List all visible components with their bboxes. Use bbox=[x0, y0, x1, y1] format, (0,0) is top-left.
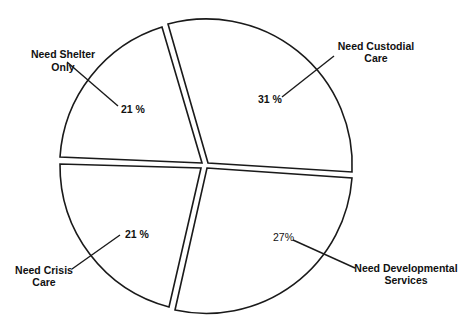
slice-developmental-shape bbox=[175, 168, 352, 313]
label-crisis-line2: Care bbox=[32, 276, 56, 288]
value-custodial: 31 % bbox=[258, 93, 283, 105]
value-developmental: 27% bbox=[273, 231, 294, 243]
label-shelter-line2: Only bbox=[51, 61, 74, 73]
label-custodial-line1: Need Custodial bbox=[338, 40, 415, 52]
label-custodial-line2: Care bbox=[364, 52, 388, 64]
label-crisis-line1: Need Crisis bbox=[15, 264, 73, 276]
label-developmental-line1: Need Developmental bbox=[354, 262, 457, 274]
pie-chart: Need Shelter Only 21 % Need Custodial Ca… bbox=[0, 0, 465, 328]
value-crisis: 21 % bbox=[125, 228, 150, 240]
value-shelter: 21 % bbox=[121, 103, 146, 115]
slice-developmental-services bbox=[175, 168, 352, 313]
label-developmental-line2: Services bbox=[384, 274, 427, 286]
label-shelter-line1: Need Shelter bbox=[31, 48, 95, 60]
